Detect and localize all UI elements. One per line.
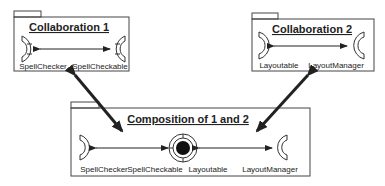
role-label: LayoutManager — [308, 61, 364, 70]
role-label: SpellCheckable — [72, 62, 128, 71]
role-port-icon — [80, 135, 89, 160]
package-title: Composition of 1 and 2 — [127, 113, 249, 125]
package-collaboration-2: Collaboration 2 Layoutable LayoutManager — [252, 13, 374, 71]
package-title: Collaboration 2 — [272, 23, 352, 35]
role-label: Layoutable — [188, 165, 228, 174]
collaboration-composition-diagram: Collaboration 1 SpellChecker SpellChecka… — [0, 0, 385, 186]
role-label: SpellChecker — [19, 62, 67, 71]
package-collaboration-1: Collaboration 1 SpellChecker SpellChecka… — [14, 11, 129, 71]
role-port-icon — [354, 32, 364, 59]
role-port-icon — [22, 36, 32, 62]
package-tab — [252, 13, 278, 19]
package-tab — [71, 102, 99, 108]
role-label: SpellCheckable — [127, 165, 183, 174]
composition-link-arrow-2 — [257, 75, 308, 131]
role-label: LayoutManager — [242, 165, 298, 174]
role-port-icon — [115, 36, 125, 62]
composition-link-arrow-1 — [75, 75, 122, 131]
role-port-icon — [278, 135, 287, 160]
role-label: SpellChecker — [80, 165, 128, 174]
package-tab — [14, 11, 41, 17]
role-port-icon — [259, 32, 269, 59]
package-title: Collaboration 1 — [29, 21, 109, 33]
role-label: Layoutable — [259, 61, 299, 70]
composed-role-icon — [169, 134, 197, 162]
